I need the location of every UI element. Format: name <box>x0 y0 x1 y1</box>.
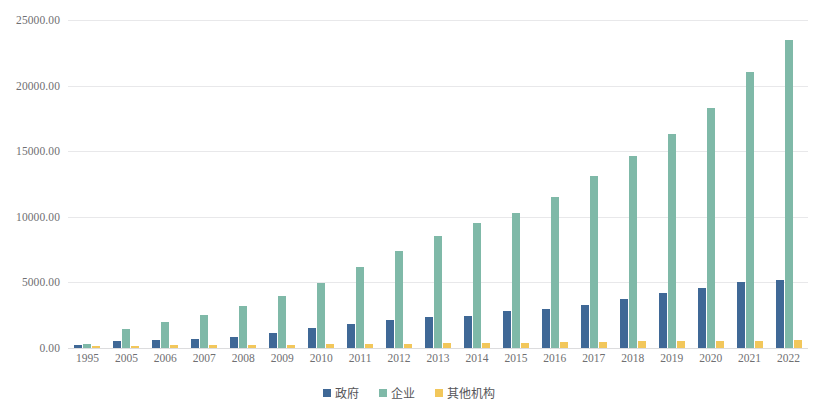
x-axis-tick-label: 2007 <box>193 352 216 364</box>
bar[interactable] <box>308 328 316 348</box>
bar-group <box>613 20 652 348</box>
y-axis-tick-label: 5000.00 <box>0 276 60 288</box>
bar[interactable] <box>560 342 568 348</box>
bar[interactable] <box>200 315 208 348</box>
bar[interactable] <box>551 197 559 348</box>
bar[interactable] <box>191 339 199 348</box>
bar[interactable] <box>707 108 715 348</box>
bar[interactable] <box>677 341 685 348</box>
bar-group <box>769 20 808 348</box>
bar[interactable] <box>92 346 100 348</box>
bar[interactable] <box>737 282 745 348</box>
bar[interactable] <box>443 343 451 348</box>
legend-swatch-icon <box>435 389 443 397</box>
bar[interactable] <box>248 345 256 348</box>
bar[interactable] <box>239 306 247 348</box>
bar[interactable] <box>347 324 355 348</box>
bar[interactable] <box>209 345 217 348</box>
bar[interactable] <box>74 345 82 348</box>
bar-group <box>496 20 535 348</box>
bar[interactable] <box>395 251 403 348</box>
bar-group <box>263 20 302 348</box>
y-axis-tick-label: 15000.00 <box>0 145 60 157</box>
y-axis-tick-label: 25000.00 <box>0 14 60 26</box>
x-axis-tick-label: 2008 <box>232 352 255 364</box>
axis-baseline <box>68 348 808 349</box>
bar[interactable] <box>326 344 334 348</box>
legend-label: 政府 <box>335 384 359 401</box>
bar-group <box>224 20 263 348</box>
bar[interactable] <box>755 341 763 348</box>
chart-legend: 政府企业其他机构 <box>0 384 817 401</box>
x-axis-tick-label: 2005 <box>115 352 138 364</box>
bar[interactable] <box>629 156 637 348</box>
bar[interactable] <box>746 72 754 348</box>
bar[interactable] <box>425 317 433 348</box>
bar-group <box>107 20 146 348</box>
bar[interactable] <box>317 283 325 348</box>
bar[interactable] <box>668 134 676 348</box>
bar[interactable] <box>698 288 706 348</box>
bar[interactable] <box>503 311 511 348</box>
y-axis-tick-label: 0.00 <box>0 342 60 354</box>
bar-group <box>185 20 224 348</box>
legend-item[interactable]: 政府 <box>323 384 359 401</box>
x-axis-tick-label: 2018 <box>621 352 644 364</box>
bar[interactable] <box>230 337 238 348</box>
bar[interactable] <box>581 305 589 348</box>
bar[interactable] <box>521 343 529 349</box>
bar[interactable] <box>542 309 550 348</box>
bar[interactable] <box>620 299 628 348</box>
x-axis-tick-label: 2009 <box>271 352 294 364</box>
x-axis-tick-label: 2006 <box>154 352 177 364</box>
bar[interactable] <box>113 341 121 348</box>
bar-group <box>457 20 496 348</box>
bar[interactable] <box>83 344 91 348</box>
bar-group <box>302 20 341 348</box>
bar[interactable] <box>464 316 472 348</box>
bar-group <box>691 20 730 348</box>
bar[interactable] <box>512 213 520 348</box>
bar[interactable] <box>131 346 139 348</box>
bar-group <box>730 20 769 348</box>
bar-group <box>146 20 185 348</box>
x-axis-tick-label: 2021 <box>738 352 761 364</box>
bar[interactable] <box>638 341 646 348</box>
x-axis-tick-label: 2017 <box>582 352 605 364</box>
bar-group <box>419 20 458 348</box>
bar-group <box>341 20 380 348</box>
bar[interactable] <box>356 267 364 348</box>
bar[interactable] <box>776 280 784 348</box>
x-axis-tick-label: 2020 <box>699 352 722 364</box>
bar[interactable] <box>434 236 442 348</box>
bar-group <box>68 20 107 348</box>
bar[interactable] <box>386 320 394 348</box>
bar-group <box>535 20 574 348</box>
legend-swatch-icon <box>379 389 387 397</box>
bar[interactable] <box>785 40 793 348</box>
x-axis-tick-label: 2010 <box>310 352 333 364</box>
bar[interactable] <box>269 333 277 348</box>
legend-item[interactable]: 企业 <box>379 384 415 401</box>
bar[interactable] <box>287 345 295 348</box>
y-axis: 0.005000.0010000.0015000.0020000.0025000… <box>0 20 60 348</box>
bar-chart: 0.005000.0010000.0015000.0020000.0025000… <box>0 0 817 405</box>
bar[interactable] <box>599 342 607 348</box>
bar[interactable] <box>590 176 598 348</box>
bar[interactable] <box>794 340 802 348</box>
bar[interactable] <box>170 345 178 348</box>
x-axis-tick-label: 2022 <box>777 352 800 364</box>
bar[interactable] <box>152 340 160 348</box>
bar[interactable] <box>404 344 412 348</box>
bar[interactable] <box>365 344 373 348</box>
bar[interactable] <box>482 343 490 348</box>
y-axis-tick-label: 20000.00 <box>0 80 60 92</box>
x-axis-tick-label: 2012 <box>388 352 411 364</box>
bar[interactable] <box>473 223 481 348</box>
bar[interactable] <box>716 341 724 348</box>
legend-item[interactable]: 其他机构 <box>435 384 495 401</box>
bar[interactable] <box>659 293 667 348</box>
bar[interactable] <box>161 322 169 349</box>
bar[interactable] <box>278 296 286 348</box>
bar[interactable] <box>122 329 130 348</box>
